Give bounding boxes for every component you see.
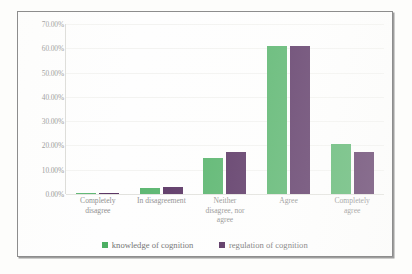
legend-swatch-icon xyxy=(102,242,108,248)
bars-layer xyxy=(66,24,384,194)
y-axis-tick-label: 60.00% xyxy=(20,44,64,53)
scanned-page: 70.00%60.00%50.00%40.00%30.00%20.00%10.0… xyxy=(0,0,412,274)
bar xyxy=(203,158,223,194)
bar-group xyxy=(320,24,384,194)
y-axis-tick-label: 0.00% xyxy=(20,190,64,199)
gridline xyxy=(66,194,384,195)
x-axis-tick-label-line: Completely xyxy=(321,196,383,206)
x-axis-tick-label-line: Completely xyxy=(67,196,129,206)
x-axis-tick-label-line: disagree xyxy=(67,206,129,216)
bar xyxy=(267,46,287,194)
x-axis-tick-label: Neitherdisagree, noragree xyxy=(193,196,257,225)
x-axis-tick-label: In disagreement xyxy=(130,196,194,225)
bar xyxy=(226,152,246,195)
bar xyxy=(290,46,310,194)
x-axis-tick-label-line: disagree, nor xyxy=(194,206,256,216)
chart-frame: 70.00%60.00%50.00%40.00%30.00%20.00%10.0… xyxy=(17,11,393,257)
x-axis-tick-label: Completelydisagree xyxy=(66,196,130,225)
y-axis-tick-label: 50.00% xyxy=(20,68,64,77)
bar xyxy=(76,193,96,194)
y-axis-tick-label: 20.00% xyxy=(20,141,64,150)
x-axis-tick-labels: CompletelydisagreeIn disagreementNeither… xyxy=(66,196,384,225)
x-axis-tick-label-line: Neither xyxy=(194,196,256,206)
legend-entry[interactable]: regulation of cognition xyxy=(219,240,307,250)
x-axis-tick-label-line: agree xyxy=(194,215,256,225)
bar xyxy=(140,188,160,194)
bar-group xyxy=(130,24,194,194)
x-axis-tick-label: Completelyagree xyxy=(320,196,384,225)
legend-label: knowledge of cognition xyxy=(112,240,194,250)
y-axis-tick-label: 30.00% xyxy=(20,117,64,126)
y-axis-tick-label: 10.00% xyxy=(20,165,64,174)
bar xyxy=(163,187,183,194)
bar-group xyxy=(193,24,257,194)
bar xyxy=(99,193,119,194)
bar xyxy=(354,152,374,195)
bar-group xyxy=(66,24,130,194)
plot-area: 70.00%60.00%50.00%40.00%30.00%20.00%10.0… xyxy=(66,24,384,194)
x-axis-tick-label-line: agree xyxy=(321,206,383,216)
legend-entry[interactable]: knowledge of cognition xyxy=(102,240,193,250)
x-axis-tick-label-line: In disagreement xyxy=(131,196,193,206)
legend-label: regulation of cognition xyxy=(229,240,308,250)
x-axis-tick-label: Agree xyxy=(257,196,321,225)
x-axis-tick-label-line: Agree xyxy=(258,196,320,206)
legend-swatch-icon xyxy=(219,242,225,248)
y-axis-tick-label: 40.00% xyxy=(20,92,64,101)
chart-legend: knowledge of cognitionregulation of cogn… xyxy=(18,240,392,250)
y-axis-tick-label: 70.00% xyxy=(20,20,64,29)
bar-group xyxy=(257,24,321,194)
bar xyxy=(331,144,351,194)
